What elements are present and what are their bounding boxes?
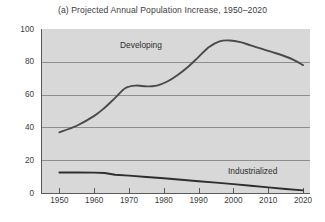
plot-area: Developing Industrialized (42, 29, 310, 193)
y-tick-label-0: 0 (0, 189, 34, 198)
x-tick-label-1990: 1990 (189, 196, 207, 205)
series-label-developing: Developing (120, 40, 162, 50)
chart-container: (a) Projected Annual Population Increase… (0, 0, 325, 222)
y-tick-label-100: 100 (0, 25, 34, 34)
x-axis-line (41, 193, 310, 194)
x-tick-label-1960: 1960 (85, 196, 103, 205)
series-line-developing (59, 40, 303, 132)
x-tick-label-1980: 1980 (155, 196, 173, 205)
y-tick-label-40: 40 (0, 123, 34, 132)
series-label-industrialized: Industrialized (228, 166, 277, 176)
x-tick-label-2010: 2010 (259, 196, 277, 205)
y-tick-label-20: 20 (0, 156, 34, 165)
x-tick-label-1970: 1970 (120, 196, 138, 205)
y-axis-group: Millions 100 80 60 40 20 0 (0, 0, 40, 222)
chart-title: (a) Projected Annual Population Increase… (0, 5, 325, 15)
y-tick-label-60: 60 (0, 90, 34, 99)
y-tick-label-80: 80 (0, 57, 34, 66)
x-tick-label-2000: 2000 (224, 196, 242, 205)
x-tick-label-1950: 1950 (50, 196, 68, 205)
x-tick-label-2020: 2020 (294, 196, 312, 205)
